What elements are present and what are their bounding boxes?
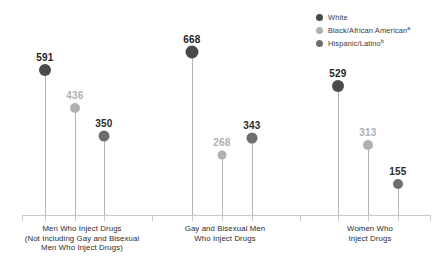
data-point-value-label: 529 (329, 68, 346, 79)
lollipop-stem (45, 70, 46, 215)
lollipop-stem (104, 136, 105, 215)
x-axis-tick (152, 215, 153, 221)
x-axis-tick (252, 215, 253, 221)
data-point-marker[interactable] (247, 133, 258, 144)
category-label-line: Inject Drugs (347, 234, 393, 244)
data-point-marker[interactable] (363, 140, 373, 150)
x-axis-tick (338, 215, 339, 221)
x-axis-tick (192, 215, 193, 221)
category-label-line: (Not Including Gay and Bisexual (25, 234, 139, 244)
x-axis-tick (300, 215, 301, 221)
x-axis-tick (22, 215, 23, 221)
category-label-line: Men Who Inject Drugs (25, 224, 139, 234)
x-axis-category-label: Men Who Inject Drugs(Not Including Gay a… (25, 224, 139, 253)
lollipop-stem (192, 52, 193, 215)
x-axis-tick (222, 215, 223, 221)
data-point-marker[interactable] (70, 103, 80, 113)
lollipop-stem (222, 155, 223, 215)
category-label-line: Who Inject Drugs (185, 234, 265, 244)
x-axis-tick (45, 215, 46, 221)
data-point-value-label: 436 (66, 90, 83, 101)
x-axis-tick (104, 215, 105, 221)
category-label-line: Gay and Bisexual Men (185, 224, 265, 234)
lollipop-stem (368, 145, 369, 215)
x-axis-category-label: Women WhoInject Drugs (347, 224, 393, 243)
chart-container: White Black/African Americana Hispanic/L… (0, 0, 444, 265)
lollipop-stem (252, 138, 253, 215)
data-point-marker[interactable] (332, 80, 344, 92)
data-point-marker[interactable] (39, 64, 51, 76)
data-point-marker[interactable] (99, 131, 110, 142)
lollipop-stem (338, 86, 339, 215)
data-point-marker[interactable] (393, 179, 403, 189)
data-point-value-label: 350 (95, 118, 112, 129)
data-point-value-label: 268 (213, 137, 230, 148)
data-point-value-label: 313 (359, 127, 376, 138)
category-label-line: Women Who (347, 224, 393, 234)
x-axis-category-label: Gay and Bisexual MenWho Inject Drugs (185, 224, 265, 243)
x-axis-tick (368, 215, 369, 221)
category-label-line: Men Who Inject Drugs) (25, 243, 139, 253)
data-point-value-label: 155 (389, 166, 406, 177)
data-point-value-label: 343 (243, 120, 260, 131)
lollipop-stem (75, 108, 76, 215)
data-point-marker[interactable] (218, 151, 227, 160)
x-axis-tick (75, 215, 76, 221)
x-axis-tick (430, 215, 431, 221)
data-point-marker[interactable] (186, 46, 199, 59)
x-axis-tick (398, 215, 399, 221)
data-point-value-label: 668 (183, 34, 200, 45)
data-point-value-label: 591 (36, 52, 53, 63)
